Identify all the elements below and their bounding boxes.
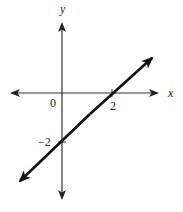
origin-label: 0 bbox=[50, 96, 56, 110]
y-tick-label: −2 bbox=[38, 135, 51, 149]
x-tick-label: 2 bbox=[110, 99, 116, 113]
graph-line-lower bbox=[20, 114, 90, 181]
y-axis-label: y bbox=[59, 2, 66, 16]
x-axis-label: x bbox=[167, 86, 174, 100]
graph-line bbox=[90, 58, 152, 114]
coordinate-graph: y x 0 2 −2 bbox=[0, 0, 183, 212]
